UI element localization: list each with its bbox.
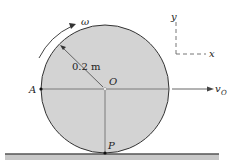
center-label: O bbox=[109, 76, 117, 87]
omega-label: ω bbox=[81, 16, 89, 27]
omega-arrowhead bbox=[69, 23, 76, 29]
point-a-label: A bbox=[28, 84, 36, 95]
point-p-dot bbox=[103, 151, 106, 154]
velocity-subscript: O bbox=[221, 89, 227, 97]
point-p-label: P bbox=[107, 140, 115, 151]
radius-label: 0.2 m bbox=[72, 61, 101, 72]
center-point bbox=[104, 88, 107, 91]
ground-shadow bbox=[5, 154, 219, 160]
y-axis-label: y bbox=[170, 11, 177, 22]
point-a-dot bbox=[39, 87, 42, 90]
x-axis-label: x bbox=[209, 48, 215, 59]
rolling-wheel-diagram: ω 0.2 m O A P v O y x bbox=[0, 0, 235, 163]
velocity-arrowhead bbox=[207, 87, 214, 92]
